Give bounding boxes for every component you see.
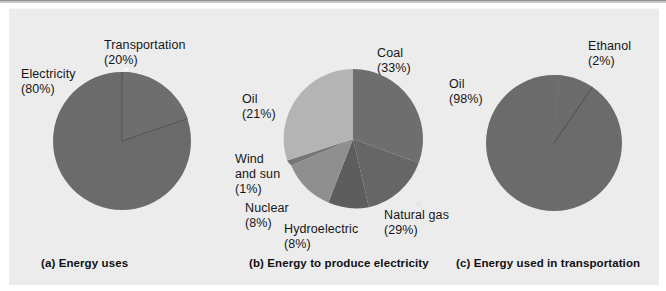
chart-c-energy-used-in-transportation: Ethanol (2%) Oil (98%) (c) Energy used i… [444, 8, 659, 285]
label-hydroelectric: Hydroelectric (8%) [284, 222, 358, 252]
label-hydroelectric-percent: (8%) [284, 237, 358, 252]
chart-b-energy-to-produce-electricity: Coal (33%) Natural gas (29%) Hydroelectr… [229, 8, 444, 285]
label-ethanol: Ethanol (2%) [588, 39, 631, 69]
label-nuclear-name: Nuclear [245, 201, 289, 216]
label-transportation-percent: (20%) [104, 53, 234, 68]
label-wind-and-sun-line1: Wind [235, 152, 280, 167]
label-hydroelectric-name: Hydroelectric [284, 222, 358, 237]
label-wind-and-sun-percent: (1%) [235, 182, 280, 197]
label-nuclear: Nuclear (8%) [245, 201, 289, 231]
label-electricity-name: Electricity [21, 67, 76, 82]
label-wind-and-sun: Wind and sun (1%) [235, 152, 280, 197]
label-natural-gas-percent: (29%) [384, 223, 449, 238]
label-transportation: Transportation (20%) [104, 38, 234, 68]
chart-a-energy-uses: Transportation (20%) Electricity (80%) (… [9, 8, 229, 285]
label-coal-name: Coal [377, 46, 411, 61]
label-coal-percent: (33%) [377, 61, 411, 76]
pie-b-svg [282, 68, 424, 210]
caption-c: (c) Energy used in transportation [456, 257, 640, 269]
label-ethanol-name: Ethanol [588, 39, 631, 54]
top-divider-rule [0, 0, 666, 3]
energy-pie-charts-figure: Transportation (20%) Electricity (80%) (… [0, 0, 666, 291]
label-oil-b-name: Oil [242, 92, 276, 107]
label-wind-and-sun-line2: and sun [235, 167, 280, 182]
label-electricity: Electricity (80%) [21, 67, 76, 97]
label-oil-c-name: Oil [449, 77, 483, 92]
pie-b-slices [284, 69, 423, 208]
caption-a: (a) Energy uses [41, 257, 128, 269]
label-transportation-name: Transportation [104, 38, 234, 53]
label-oil-c-percent: (98%) [449, 92, 483, 107]
label-electricity-percent: (80%) [21, 82, 76, 97]
label-oil-b-percent: (21%) [242, 107, 276, 122]
pie-b [282, 68, 424, 210]
figure-panel: Transportation (20%) Electricity (80%) (… [9, 8, 659, 285]
label-nuclear-percent: (8%) [245, 216, 289, 231]
label-oil-c: Oil (98%) [449, 77, 483, 107]
label-natural-gas-name: Natural gas [384, 208, 449, 223]
label-natural-gas: Natural gas (29%) [384, 208, 449, 238]
label-coal: Coal (33%) [377, 46, 411, 76]
label-ethanol-percent: (2%) [588, 54, 631, 69]
caption-b: (b) Energy to produce electricity [249, 257, 429, 269]
pie-c [485, 74, 623, 212]
label-oil-b: Oil (21%) [242, 92, 276, 122]
pie-c-svg [485, 74, 623, 212]
